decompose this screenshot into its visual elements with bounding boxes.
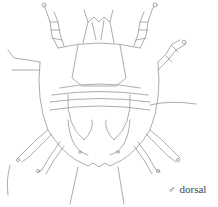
legs xyxy=(7,3,196,204)
mite-dorsal-illustration xyxy=(0,0,218,207)
view-label: dorsal xyxy=(180,183,207,195)
male-symbol-icon: ♂ xyxy=(168,184,176,195)
dorsal-shield xyxy=(39,43,159,167)
gnathosoma xyxy=(83,10,114,43)
figure-caption: ♂dorsal xyxy=(168,183,206,195)
